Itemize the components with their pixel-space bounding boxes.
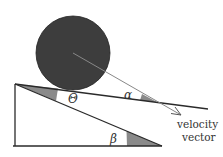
theta-label: Θ bbox=[68, 92, 78, 106]
incline-diagram: Θ α β velocity vector bbox=[0, 0, 223, 157]
beta-label: β bbox=[109, 132, 117, 146]
velocity-label-line2: vector bbox=[181, 131, 217, 143]
alpha-label: α bbox=[124, 88, 132, 102]
velocity-label-line1: velocity bbox=[176, 118, 218, 130]
arrowhead-icon bbox=[171, 107, 181, 115]
